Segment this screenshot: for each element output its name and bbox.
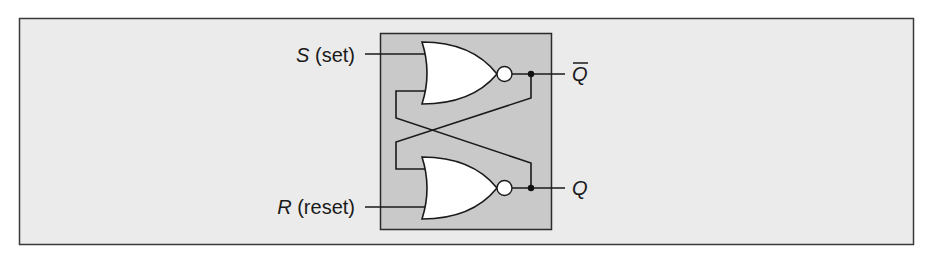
- qbar-output-label: Q: [572, 63, 588, 85]
- reset-input-suffix: (reset): [292, 196, 355, 218]
- reset-input-letter: R: [277, 196, 291, 218]
- set-input-letter: S: [296, 44, 310, 66]
- qbar-junction-dot: [528, 71, 534, 77]
- nor-gate-bottom-inversion-bubble: [497, 181, 512, 196]
- reset-input-label: R (reset): [277, 196, 355, 218]
- sr-latch-diagram: S (set) R (reset) Q Q: [0, 0, 925, 262]
- q-junction-dot: [528, 185, 534, 191]
- q-output-label: Q: [572, 177, 588, 199]
- set-input-suffix: (set): [309, 44, 355, 66]
- nor-gate-top-inversion-bubble: [497, 67, 512, 82]
- set-input-label: S (set): [296, 44, 355, 66]
